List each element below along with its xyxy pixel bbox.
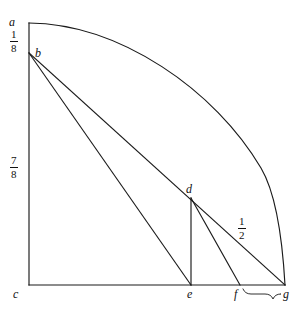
vertex-label-e: e	[187, 288, 192, 300]
segment-d-to-f	[191, 198, 240, 285]
fraction-one-half-denominator: 2	[238, 229, 246, 241]
vertex-label-b: b	[35, 47, 41, 59]
geometric-figure: a b c d e f g 1 8 7 8 1 2	[0, 0, 300, 315]
quarter-arc-curve	[29, 23, 285, 285]
fraction-seven-eighths-numerator: 7	[10, 155, 18, 168]
figure-canvas	[0, 0, 300, 315]
fraction-one-half-numerator: 1	[238, 216, 246, 229]
vertex-label-a: a	[9, 16, 15, 28]
fraction-one-eighth-numerator: 1	[10, 29, 18, 42]
vertex-label-f: f	[234, 288, 237, 300]
fraction-one-half: 1 2	[238, 216, 246, 241]
fraction-seven-eighths-denominator: 8	[10, 168, 18, 180]
brace-f-to-g	[243, 289, 281, 299]
segment-b-to-g	[29, 53, 285, 285]
vertex-label-c: c	[13, 288, 18, 300]
fraction-one-eighth: 1 8	[10, 29, 18, 54]
vertex-label-d: d	[186, 183, 192, 195]
vertex-label-g: g	[283, 288, 289, 300]
fraction-one-eighth-denominator: 8	[10, 42, 18, 54]
segment-b-to-e	[29, 53, 191, 285]
fraction-seven-eighths: 7 8	[10, 155, 18, 180]
